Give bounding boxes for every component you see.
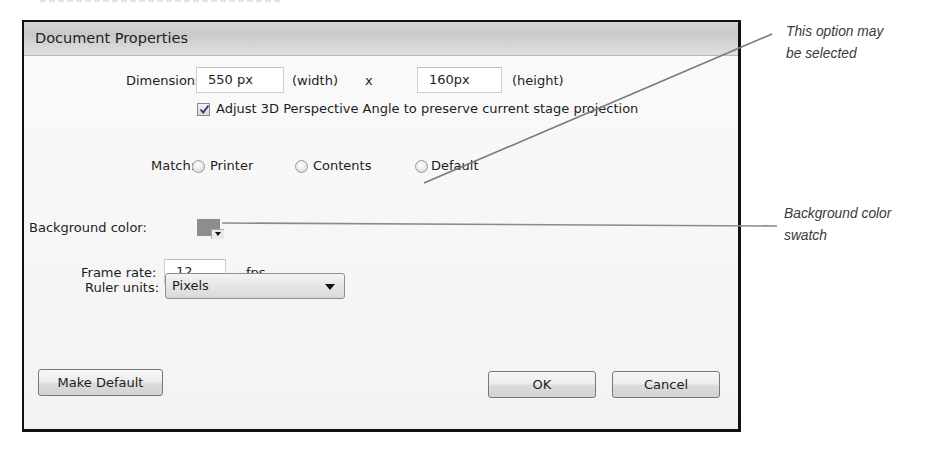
ruler-units-label: Ruler units: [85, 280, 159, 295]
dialog-titlebar[interactable]: Document Properties [24, 22, 738, 56]
adjust-3d-label[interactable]: Adjust 3D Perspective Angle to preserve … [216, 101, 638, 116]
callout-text-line: Background color [784, 202, 891, 224]
make-default-button[interactable]: Make Default [38, 369, 163, 396]
swatch-dropdown-arrow-icon [211, 229, 224, 239]
width-input[interactable]: 550 px [196, 67, 284, 93]
background-color-swatch[interactable] [197, 219, 224, 239]
checkmark-icon [199, 104, 210, 115]
clipped-caption-text [40, 0, 280, 4]
match-contents-label[interactable]: Contents [313, 158, 371, 173]
match-printer-radio[interactable] [192, 160, 205, 173]
background-color-label: Background color: [29, 220, 147, 235]
ok-button[interactable]: OK [488, 371, 596, 398]
width-suffix: (width) [292, 73, 338, 88]
match-default-label[interactable]: Default [431, 158, 479, 173]
dialog-title: Document Properties [35, 30, 188, 46]
match-label: Match: [151, 158, 195, 173]
chevron-down-icon [325, 284, 335, 290]
height-suffix: (height) [512, 73, 564, 88]
callout-option-selectable: This option may be selected [786, 20, 883, 64]
ruler-units-select[interactable]: Pixels [165, 273, 345, 299]
height-input[interactable]: 160px [417, 67, 502, 93]
cancel-button[interactable]: Cancel [612, 371, 720, 398]
callout-text-line: be selected [786, 42, 883, 64]
ruler-units-value: Pixels [172, 278, 209, 293]
match-printer-label[interactable]: Printer [210, 158, 253, 173]
match-default-radio[interactable] [415, 160, 428, 173]
frame-rate-label: Frame rate: [81, 265, 156, 280]
match-contents-radio[interactable] [295, 160, 308, 173]
adjust-3d-checkbox[interactable] [197, 103, 210, 116]
dimensions-label: Dimensions: [126, 73, 206, 88]
callout-text-line: This option may [786, 20, 883, 42]
document-properties-dialog: Document Properties Dimensions: 550 px (… [22, 20, 741, 432]
dimension-separator: x [365, 73, 373, 88]
callout-background-swatch: Background color swatch [784, 202, 891, 246]
callout-text-line: swatch [784, 224, 891, 246]
